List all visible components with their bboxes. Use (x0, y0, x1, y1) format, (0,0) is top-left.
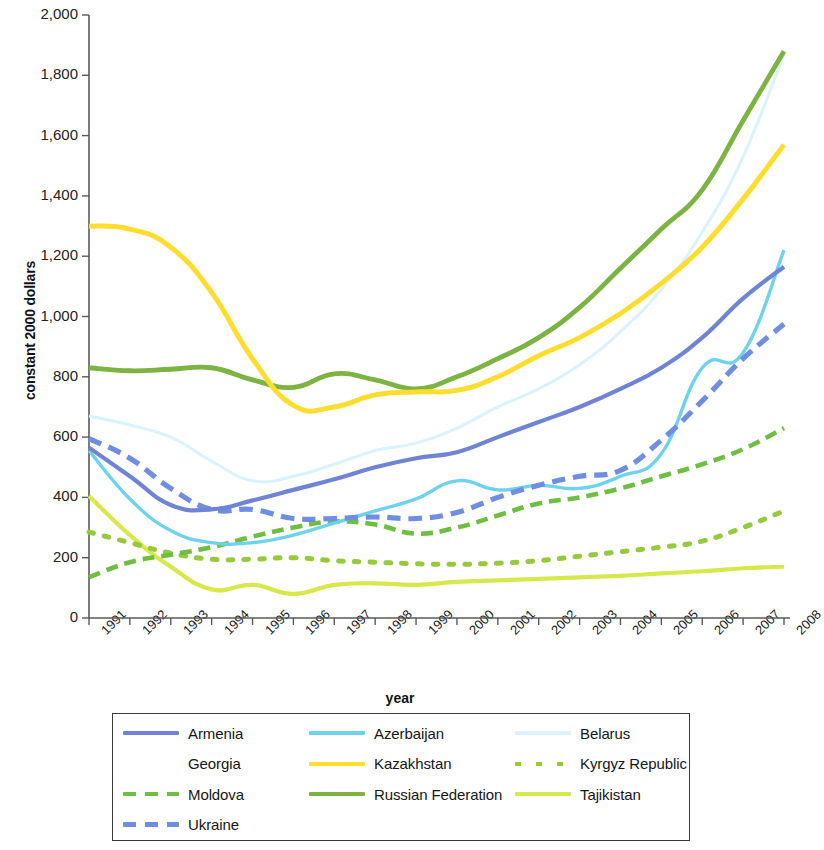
legend-item-azerbaijan[interactable]: Azerbaijan (299, 725, 505, 742)
legend-item-belarus[interactable]: Belarus (505, 725, 691, 742)
legend-label: Georgia (188, 755, 241, 772)
chart-legend: ArmeniaAzerbaijanBelarusGeorgiaKazakhsta… (112, 713, 690, 841)
legend-swatch-icon (123, 822, 179, 827)
legend-label: Belarus (580, 725, 630, 742)
legend-swatch-icon (309, 731, 365, 735)
series-line-kazakhstan (89, 145, 784, 412)
legend-label: Tajikistan (580, 786, 641, 803)
series-line-azerbaijan (89, 250, 784, 544)
legend-label: Russian Federation (374, 786, 502, 803)
series-line-armenia (89, 267, 784, 511)
legend-item-armenia[interactable]: Armenia (113, 725, 299, 742)
series-line-russian-federation (89, 51, 784, 389)
legend-label: Armenia (188, 725, 243, 742)
legend-item-russian-federation[interactable]: Russian Federation (299, 786, 505, 803)
plot-area (0, 0, 800, 700)
legend-label: Ukraine (188, 816, 239, 833)
legend-swatch-icon (515, 792, 571, 796)
legend-label: Azerbaijan (374, 725, 444, 742)
legend-item-kazakhstan[interactable]: Kazakhstan (299, 755, 505, 772)
legend-item-ukraine[interactable]: Ukraine (113, 816, 299, 833)
legend-swatch-icon (309, 762, 365, 766)
legend-item-georgia[interactable]: Georgia (113, 755, 299, 772)
legend-swatch-icon (309, 792, 365, 796)
legend-label: Kyrgyz Republic (580, 755, 687, 772)
legend-swatch-icon (515, 731, 571, 735)
legend-item-moldova[interactable]: Moldova (113, 786, 299, 803)
legend-swatch-icon (515, 762, 571, 766)
legend-label: Kazakhstan (374, 755, 451, 772)
legend-label: Moldova (188, 786, 244, 803)
legend-swatch-icon (123, 731, 179, 735)
legend-item-kyrgyz-republic[interactable]: Kyrgyz Republic (505, 755, 691, 772)
legend-swatch-icon (123, 792, 179, 796)
legend-item-tajikistan[interactable]: Tajikistan (505, 786, 691, 803)
legend-swatch-icon (123, 762, 179, 766)
